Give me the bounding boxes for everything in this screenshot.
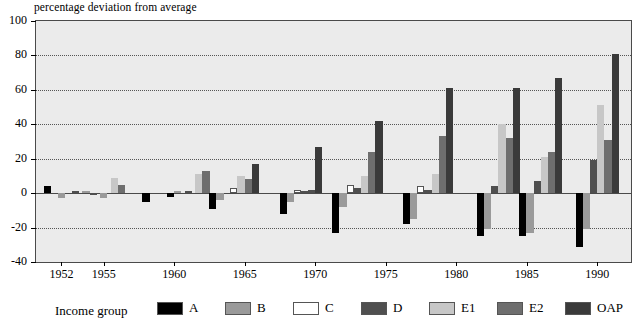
legend-label-e2: E2 — [529, 300, 543, 316]
bar — [576, 193, 583, 246]
x-tick-mark — [61, 262, 62, 266]
plot-inner — [36, 21, 631, 262]
y-tick-mark — [31, 159, 36, 160]
x-tick-label: 1952 — [49, 267, 73, 282]
bar — [237, 176, 244, 193]
bar — [432, 174, 439, 193]
y-axis-caption: percentage deviation from average — [34, 1, 197, 13]
x-tick-label: 1970 — [303, 267, 327, 282]
legend-swatch-d — [361, 302, 387, 315]
gridline — [36, 90, 631, 91]
legend-swatch-c — [293, 302, 319, 315]
bar — [202, 171, 209, 193]
bar — [424, 190, 431, 193]
bar — [526, 193, 533, 233]
y-tick-mark — [31, 124, 36, 125]
x-tick-label: 1975 — [374, 267, 398, 282]
bar — [209, 193, 216, 208]
bar — [604, 140, 611, 193]
bar — [583, 193, 590, 229]
bar — [513, 88, 520, 193]
bar — [519, 193, 526, 236]
plot-area — [35, 20, 632, 263]
x-tick-mark — [174, 262, 175, 266]
bar — [417, 186, 424, 193]
y-tick-mark — [31, 55, 36, 56]
bar — [174, 191, 181, 193]
bar — [446, 88, 453, 193]
x-tick-mark — [386, 262, 387, 266]
y-tick-mark — [31, 193, 36, 194]
bar — [72, 191, 79, 193]
legend-swatch-oap — [565, 302, 591, 315]
bar — [506, 138, 513, 193]
bar — [185, 191, 192, 193]
bar — [287, 193, 294, 202]
y-tick-label: 60 — [0, 82, 27, 97]
bar — [308, 190, 315, 193]
legend-label-b: B — [257, 300, 266, 316]
bar — [90, 193, 97, 195]
bar — [439, 136, 446, 193]
bar — [315, 147, 322, 193]
bar — [118, 185, 125, 194]
bar — [58, 193, 65, 198]
y-tick-label: 100 — [0, 13, 27, 28]
chart-root: percentage deviation from average -40-20… — [0, 0, 642, 331]
legend-label-c: C — [325, 300, 334, 316]
bar — [195, 174, 202, 193]
legend-swatch-a — [157, 302, 183, 315]
bar — [498, 124, 505, 193]
bar — [403, 193, 410, 224]
gridline — [36, 124, 631, 125]
bar — [361, 176, 368, 193]
x-tick-label: 1965 — [233, 267, 257, 282]
x-tick-label: 1990 — [585, 267, 609, 282]
bar — [252, 164, 259, 193]
x-tick-mark — [315, 262, 316, 266]
legend-label-oap: OAP — [597, 300, 623, 316]
y-tick-mark — [31, 90, 36, 91]
legend-label-e1: E1 — [461, 300, 475, 316]
bar — [332, 193, 339, 233]
x-tick-mark — [245, 262, 246, 266]
bar — [111, 178, 118, 193]
legend-swatch-b — [225, 302, 251, 315]
bar — [484, 193, 491, 229]
x-tick-label: 1980 — [444, 267, 468, 282]
bar — [590, 160, 597, 193]
bar — [410, 193, 417, 219]
bar — [167, 193, 174, 196]
bar — [100, 193, 107, 198]
y-tick-label: 40 — [0, 116, 27, 131]
legend: Income group ABCDE1E2OAP — [0, 297, 642, 327]
x-tick-label: 1960 — [162, 267, 186, 282]
bar — [142, 193, 149, 202]
bar — [347, 185, 354, 194]
bar — [280, 193, 287, 214]
x-tick-mark — [456, 262, 457, 266]
y-tick-mark — [31, 228, 36, 229]
y-tick-label: -20 — [0, 220, 27, 235]
bar — [375, 121, 382, 193]
y-tick-label: -40 — [0, 254, 27, 269]
bar — [534, 181, 541, 193]
bar — [230, 188, 237, 193]
bar — [44, 186, 51, 193]
x-tick-mark — [597, 262, 598, 266]
bar — [354, 188, 361, 193]
bar — [597, 105, 604, 193]
x-tick-mark — [527, 262, 528, 266]
bar — [477, 193, 484, 236]
bar — [368, 152, 375, 193]
y-tick-label: 80 — [0, 47, 27, 62]
bar — [339, 193, 346, 207]
y-tick-mark — [31, 21, 36, 22]
bar — [548, 152, 555, 193]
bar — [612, 54, 619, 193]
y-tick-label: 0 — [0, 185, 27, 200]
legend-swatch-e1 — [429, 302, 455, 315]
bar — [491, 186, 498, 193]
legend-label-d: D — [393, 300, 402, 316]
gridline — [36, 55, 631, 56]
